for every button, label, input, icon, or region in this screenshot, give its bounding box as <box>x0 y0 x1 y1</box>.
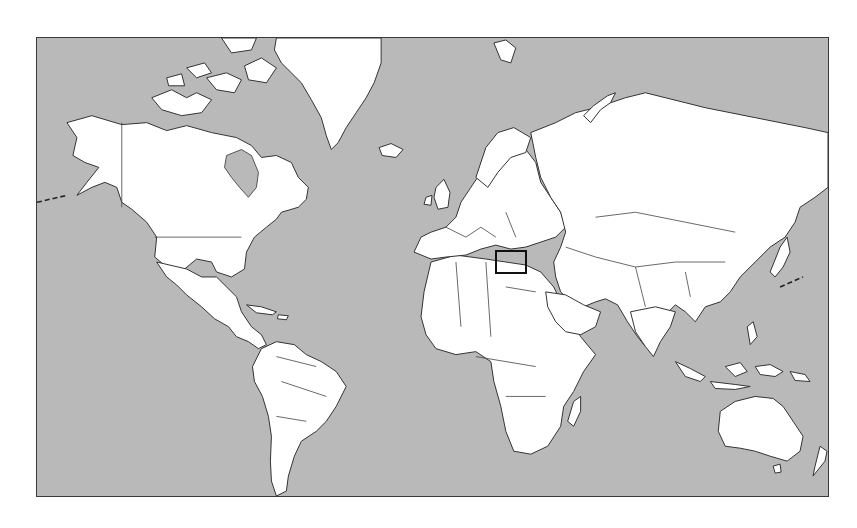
world-map <box>36 37 829 497</box>
tasmania <box>773 464 781 473</box>
world-map-svg <box>37 38 828 496</box>
highlight-region-box <box>495 250 527 274</box>
